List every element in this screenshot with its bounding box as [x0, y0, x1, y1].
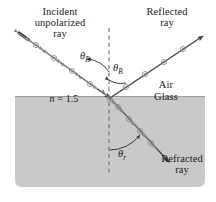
- theta-b-incident-arc: [87, 59, 109, 72]
- theta-refraction-label: θr: [118, 148, 126, 163]
- refracted-ray-label-line2: ray: [152, 164, 212, 175]
- theta-subscript-reflected: B: [118, 68, 123, 76]
- glass-medium-label: Glass: [147, 91, 185, 102]
- theta-brewster-reflected-label: θB: [113, 62, 123, 77]
- reflected-ray-label-line2: ray: [136, 17, 198, 28]
- refractive-index-value: 1.5: [66, 93, 79, 104]
- incident-ray: [18, 33, 110, 98]
- theta-b-reflected-arc: [109, 80, 126, 84]
- polarization-diagram: Incident unpolarized ray Reflected ray R…: [0, 0, 216, 202]
- incident-ray-label-line1: Incident: [24, 6, 96, 17]
- reflected-ray-label: Reflected ray: [136, 6, 198, 28]
- incident-ray-label-line3: ray: [24, 28, 96, 39]
- theta-subscript-refraction: r: [123, 154, 126, 162]
- air-medium-label: Air: [152, 79, 180, 90]
- reflected-ray-label-line1: Reflected: [136, 6, 198, 17]
- incident-ray-label: Incident unpolarized ray: [24, 6, 96, 39]
- refractive-index-equals: =: [55, 93, 66, 104]
- theta-subscript-incident: B: [85, 56, 90, 64]
- refractive-index-label: n = 1.5: [44, 94, 84, 105]
- refracted-ray-label-line1: Refracted: [152, 153, 212, 164]
- refracted-ray-label: Refracted ray: [152, 153, 212, 175]
- theta-brewster-incident-label: θB: [80, 50, 90, 65]
- incident-ray-label-line2: unpolarized: [24, 17, 96, 28]
